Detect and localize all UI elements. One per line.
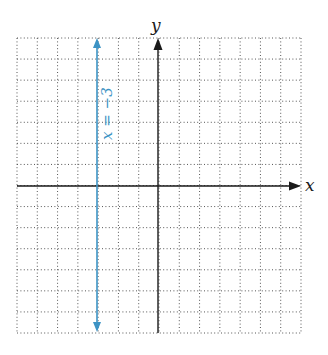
line-arrow-up-icon	[93, 38, 101, 48]
line-arrow-down-icon	[93, 322, 101, 332]
line-equation-label: x = −3	[98, 87, 116, 140]
x-axis-arrow-icon	[289, 182, 301, 191]
x-axis-label: x	[305, 175, 315, 195]
y-axis-arrow-icon	[154, 38, 163, 50]
y-axis-label: y	[150, 15, 161, 35]
coordinate-plane: x = −3 y x	[0, 0, 328, 355]
